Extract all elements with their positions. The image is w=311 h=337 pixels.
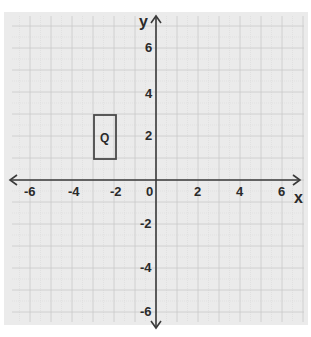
x-tick-label: -4 — [68, 184, 80, 199]
y-tick-label: 6 — [145, 40, 152, 55]
y-tick-label: 4 — [145, 86, 153, 101]
y-tick-label: -6 — [140, 304, 152, 319]
rectangle-q-label: Q — [100, 131, 109, 145]
y-tick-label: -4 — [140, 260, 152, 275]
x-tick-label: 2 — [194, 184, 201, 199]
x-axis-label: x — [294, 189, 303, 206]
coordinate-plane: y x -6 -4 -2 0 2 4 6 6 4 2 -2 -4 -6 Q — [0, 0, 311, 337]
x-tick-label: 6 — [278, 184, 285, 199]
x-tick-label: -6 — [24, 184, 36, 199]
x-tick-label: 0 — [146, 184, 153, 199]
y-tick-label: 2 — [145, 128, 152, 143]
x-tick-label: 4 — [236, 184, 244, 199]
x-tick-label: -2 — [110, 184, 122, 199]
y-axis-label: y — [139, 13, 148, 30]
y-tick-label: -2 — [140, 216, 152, 231]
